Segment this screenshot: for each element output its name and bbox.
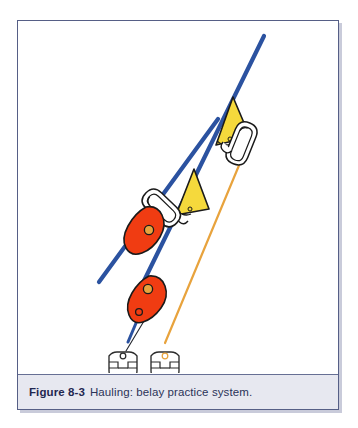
upper-pulley-axle <box>144 225 153 234</box>
middle-yellow-pulley <box>176 169 209 215</box>
figure-caption-body: Hauling: belay practice system. <box>90 386 252 398</box>
figure-root: Figure 8-3Hauling: belay practice system… <box>0 0 358 428</box>
figure-box: Figure 8-3Hauling: belay practice system… <box>17 20 339 410</box>
lower-pulley-becket <box>136 309 143 316</box>
figure-caption-band: Figure 8-3Hauling: belay practice system… <box>18 374 338 409</box>
left-bolt-hole <box>120 353 126 359</box>
left-bolt-hanger <box>109 352 137 373</box>
lower-pulley-axle <box>143 284 152 293</box>
upper-red-pulley <box>124 207 164 255</box>
lower-red-pulley <box>128 276 167 323</box>
figure-illustration <box>18 21 338 373</box>
figure-number: Figure 8-3 <box>29 386 85 398</box>
figure-caption: Figure 8-3Hauling: belay practice system… <box>29 386 252 398</box>
orange-belay-line <box>165 139 250 343</box>
hauling-system-drawing <box>18 21 337 373</box>
right-bolt-hanger <box>151 352 179 373</box>
right-bolt-hole <box>162 353 168 359</box>
